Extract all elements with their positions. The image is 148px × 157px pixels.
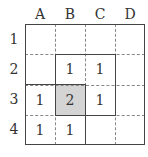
column-label-a: A bbox=[25, 6, 55, 22]
column-label-b: B bbox=[55, 6, 85, 22]
column-label-d: D bbox=[115, 6, 145, 22]
row-label-4: 4 bbox=[6, 114, 22, 144]
cell-c3: 1 bbox=[85, 85, 115, 115]
column-label-c: C bbox=[85, 6, 115, 22]
cell-a4: 1 bbox=[25, 115, 55, 145]
cell-b4: 1 bbox=[55, 115, 85, 145]
cell-a3: 1 bbox=[25, 85, 55, 115]
row-label-1: 1 bbox=[6, 24, 22, 54]
cell-b2: 1 bbox=[55, 54, 85, 84]
cell-c2: 1 bbox=[85, 54, 115, 84]
row-label-3: 3 bbox=[6, 84, 22, 114]
cell-b3: 2 bbox=[55, 85, 85, 115]
grid: 1 1 1 2 1 1 1 bbox=[25, 24, 145, 145]
row-label-2: 2 bbox=[6, 54, 22, 84]
